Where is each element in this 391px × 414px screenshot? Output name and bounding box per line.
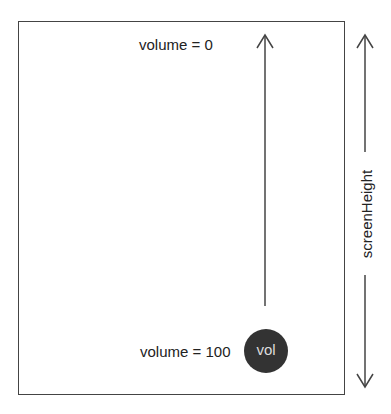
volume-max-label: volume = 100 xyxy=(140,343,230,360)
volume-knob[interactable]: vol xyxy=(244,329,288,373)
volume-min-label: volume = 0 xyxy=(139,36,213,53)
screen-height-label: screenHeight xyxy=(358,170,375,258)
volume-direction-arrow-icon xyxy=(257,35,273,306)
volume-knob-label: vol xyxy=(256,341,275,358)
